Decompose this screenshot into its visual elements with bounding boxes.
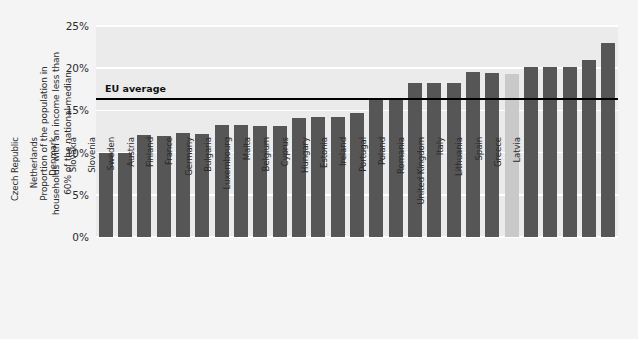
x-tick-label: Greece — [493, 137, 505, 237]
x-tick-label: Germany — [184, 137, 196, 237]
bar — [524, 67, 538, 237]
x-tick-label: Lithuania — [454, 137, 466, 237]
x-tick-label: Spain — [474, 137, 486, 237]
chart-figure: Proportion of the population in househol… — [0, 0, 638, 339]
x-tick-label: Denmark — [48, 137, 60, 237]
bar — [601, 43, 615, 237]
x-tick-label: Hungary — [300, 137, 312, 237]
x-tick-label: Slovakia — [68, 137, 80, 237]
x-tick-label: Sweden — [106, 137, 118, 237]
bar — [543, 67, 557, 237]
x-tick-label: Czech Republic — [10, 137, 22, 237]
eu-average-line — [96, 98, 618, 100]
bar — [563, 67, 577, 237]
x-tick-label: Finland — [145, 137, 157, 237]
x-tick-label: Netherlands — [29, 137, 41, 237]
x-tick-label: Slovenia — [87, 137, 99, 237]
x-tick-label: Estonia — [319, 137, 331, 237]
y-tick-label: 15% — [55, 104, 89, 116]
x-tick-label: Italy — [435, 137, 447, 237]
eu-average-label: EU average — [105, 83, 166, 94]
x-tick-label: Portugal — [358, 137, 370, 237]
y-tick-label: 25% — [55, 20, 89, 32]
x-tick-label: United Kingdom — [416, 137, 428, 237]
x-tick-label: Malta — [242, 137, 254, 237]
x-tick-label: Belgium — [261, 137, 273, 237]
bar — [582, 60, 596, 237]
x-tick-label: Luxembourg — [222, 137, 234, 237]
y-tick-label: 20% — [55, 62, 89, 74]
x-tick-label: Poland — [377, 137, 389, 237]
x-tick-label: France — [164, 137, 176, 237]
x-axis-ticks: Czech RepublicNetherlandsDenmarkSlovakia… — [96, 237, 618, 339]
x-tick-label: Austria — [126, 137, 138, 237]
x-tick-label: Latvia — [512, 137, 524, 237]
x-tick-label: Bulgaria — [203, 137, 215, 237]
x-tick-label: Ireland — [338, 137, 350, 237]
x-tick-label: Romania — [396, 137, 408, 237]
x-tick-label: Cyprus — [280, 137, 292, 237]
